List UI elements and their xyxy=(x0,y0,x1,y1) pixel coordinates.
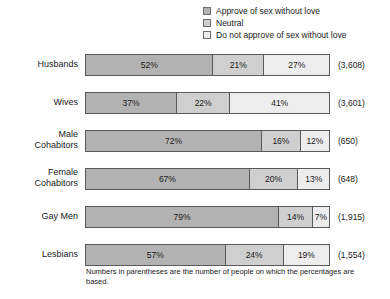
legend-item-label: Approve of sex without love xyxy=(216,6,320,16)
row-sample-size: (3,608) xyxy=(338,54,365,76)
stacked-bar: 72%16%12% xyxy=(85,130,330,152)
legend-item: Do not approve of sex without love xyxy=(203,29,388,40)
bar-segment-approve: 57% xyxy=(86,245,225,265)
row-sample-size: (3,601) xyxy=(338,92,365,114)
row-label: Lesbians xyxy=(4,249,78,260)
bar-segment-disapprove: 12% xyxy=(300,131,329,151)
bar-segment-value: 22% xyxy=(195,98,212,108)
stacked-bar: 52%21%27% xyxy=(85,54,330,76)
legend-item-label: Neutral xyxy=(216,18,243,28)
legend-item: Neutral xyxy=(203,17,388,28)
legend-swatch-disapprove xyxy=(203,31,211,39)
bar-segment-disapprove: 19% xyxy=(283,245,329,265)
bar-segment-value: 27% xyxy=(288,60,305,70)
row-sample-size: (650) xyxy=(338,130,358,152)
bar-segment-value: 13% xyxy=(305,174,322,184)
bar-segment-approve: 67% xyxy=(86,169,249,189)
bar-segment-value: 24% xyxy=(246,250,263,260)
bar-segment-value: 20% xyxy=(265,174,282,184)
bar-segment-value: 52% xyxy=(141,60,158,70)
bar-segment-value: 72% xyxy=(165,136,182,146)
bar-segment-neutral: 21% xyxy=(212,55,263,75)
bar-segment-disapprove: 13% xyxy=(297,169,329,189)
bar-segment-approve: 72% xyxy=(86,131,261,151)
bar-segment-disapprove: 41% xyxy=(229,93,329,113)
chart-row: Male Cohabitors72%16%12%(650) xyxy=(0,126,390,164)
legend-item-label: Do not approve of sex without love xyxy=(216,30,346,40)
bar-segment-value: 57% xyxy=(147,250,164,260)
bar-segment-value: 19% xyxy=(298,250,315,260)
legend-swatch-approve xyxy=(203,7,211,15)
bar-segment-approve: 79% xyxy=(86,207,278,227)
chart-legend: Approve of sex without loveNeutralDo not… xyxy=(203,5,388,41)
bar-segment-disapprove: 7% xyxy=(312,207,329,227)
chart-row: Gay Men79%14%7%(1,915) xyxy=(0,202,390,240)
bar-segment-disapprove: 27% xyxy=(263,55,329,75)
bar-segment-approve: 37% xyxy=(86,93,176,113)
chart-row: Husbands52%21%27%(3,608) xyxy=(0,50,390,88)
chart-row: Wives37%22%41%(3,601) xyxy=(0,88,390,126)
bar-segment-value: 67% xyxy=(159,174,176,184)
row-sample-size: (1,554) xyxy=(338,244,365,266)
bar-segment-value: 21% xyxy=(230,60,247,70)
row-label: Male Cohabitors xyxy=(4,129,78,150)
bar-segment-value: 79% xyxy=(173,212,190,222)
chart-row: Female Cohabitors67%20%13%(648) xyxy=(0,164,390,202)
chart-footnote: Numbers in parentheses are the number of… xyxy=(86,267,366,287)
legend-item: Approve of sex without love xyxy=(203,5,388,16)
bar-segment-neutral: 24% xyxy=(225,245,283,265)
legend-swatch-neutral xyxy=(203,19,211,27)
stacked-bar: 79%14%7% xyxy=(85,206,330,228)
bar-segment-value: 12% xyxy=(306,136,323,146)
row-sample-size: (1,915) xyxy=(338,206,365,228)
row-label: Gay Men xyxy=(4,211,78,222)
chart-rows: Husbands52%21%27%(3,608)Wives37%22%41%(3… xyxy=(0,50,390,278)
bar-segment-neutral: 14% xyxy=(278,207,312,227)
bar-segment-value: 7% xyxy=(315,212,327,222)
row-label: Husbands xyxy=(4,59,78,70)
bar-segment-neutral: 16% xyxy=(261,131,300,151)
stacked-bar: 37%22%41% xyxy=(85,92,330,114)
row-sample-size: (648) xyxy=(338,168,358,190)
bar-segment-value: 37% xyxy=(122,98,139,108)
bar-segment-neutral: 22% xyxy=(176,93,229,113)
bar-segment-neutral: 20% xyxy=(249,169,298,189)
row-label: Female Cohabitors xyxy=(4,167,78,188)
stacked-bar: 57%24%19% xyxy=(85,244,330,266)
stacked-bar-chart: Approve of sex without loveNeutralDo not… xyxy=(0,0,390,299)
bar-segment-value: 16% xyxy=(272,136,289,146)
bar-segment-value: 14% xyxy=(287,212,304,222)
stacked-bar: 67%20%13% xyxy=(85,168,330,190)
row-label: Wives xyxy=(4,97,78,108)
bar-segment-approve: 52% xyxy=(86,55,212,75)
bar-segment-value: 41% xyxy=(271,98,288,108)
